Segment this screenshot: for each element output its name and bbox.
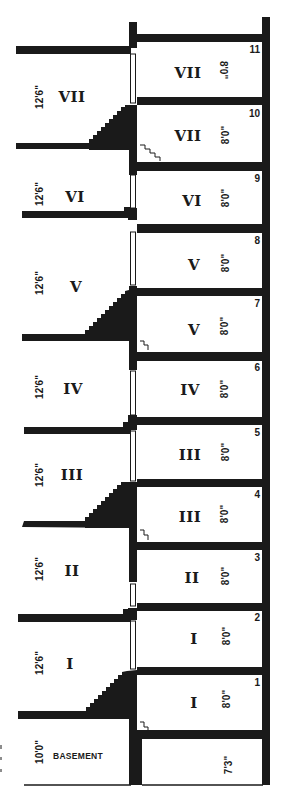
height-dim-floor-5: 8'0" — [220, 443, 231, 461]
level-label-II-left: II — [64, 562, 79, 580]
stair-mark-1 — [140, 722, 148, 731]
level-label-I-floor-1: I — [190, 694, 198, 712]
wall-opening — [131, 54, 136, 103]
wall-opening — [131, 175, 136, 208]
level-label-V-floor-7: V — [188, 321, 200, 339]
floor-number-11: 11 — [249, 44, 260, 55]
height-dim-basement-left: 10'0" — [34, 740, 45, 764]
level-label-I-left: I — [66, 655, 74, 673]
height-dim-III-left: 12'6" — [34, 463, 45, 487]
height-dim-floor-10: 8'0" — [220, 126, 231, 144]
level-label-V-left: V — [70, 278, 82, 296]
section-linework — [0, 0, 284, 799]
floor-number-3: 3 — [254, 552, 260, 563]
stair-I — [86, 670, 137, 719]
floor-number-7: 7 — [254, 298, 260, 309]
floor-number-10: 10 — [249, 108, 260, 119]
level-label-V-floor-8: V — [188, 256, 200, 274]
level-label-II-floor-3: II — [184, 569, 199, 587]
height-dim-floor-4: 8'0" — [219, 505, 230, 523]
height-dim-floor-3: 8'0" — [220, 567, 231, 585]
slab-floor-10 — [137, 97, 263, 105]
level-label-VII-left: VII — [58, 88, 85, 106]
level-label-VI-floor-9: VI — [182, 192, 202, 210]
height-dim-floor-11: 8'0" — [218, 61, 229, 79]
height-dim-II-left: 12'6" — [34, 557, 45, 581]
floor-number-8: 8 — [254, 235, 260, 246]
central-wall-seg — [129, 160, 137, 175]
slab-floor-7 — [137, 288, 263, 296]
slab-floor-9 — [137, 162, 263, 171]
floor-number-4: 4 — [254, 489, 260, 500]
height-dim-floor-6: 8'0" — [219, 380, 230, 398]
slab-floor-5 — [137, 417, 263, 425]
height-dim-floor-2: 8'0" — [221, 627, 232, 645]
slab-floor-4 — [137, 479, 263, 487]
left-slab-IV-step — [123, 422, 132, 429]
level-label-III-floor-4: III — [179, 508, 202, 526]
stair-V — [85, 288, 137, 341]
basement-label: BASEMENT — [53, 751, 103, 761]
height-dim-IV-left: 12'6" — [34, 375, 45, 399]
stair-VII — [89, 105, 137, 150]
height-dim-I-left: 12'6" — [34, 651, 45, 675]
stair-mark-4 — [140, 530, 148, 540]
slab-floor-2 — [137, 603, 263, 611]
left-slab-II-step — [123, 609, 132, 616]
stair-mark-10 — [140, 145, 160, 161]
wall-opening — [131, 232, 136, 285]
height-dim-floor-7: 8'0" — [219, 317, 230, 335]
height-dim-floor-9: 8'0" — [220, 189, 231, 207]
stair-mark-7 — [140, 341, 148, 350]
height-dim-V-left: 12'6" — [34, 271, 45, 295]
level-label-VII-floor-10: VII — [174, 127, 201, 145]
wall-opening — [131, 371, 136, 415]
level-label-VII-floor-11: VII — [174, 64, 201, 82]
height-dim-floor-1: 8'0" — [221, 690, 232, 708]
floor-number-9: 9 — [254, 173, 260, 184]
slab-floor-1 — [137, 667, 263, 675]
level-label-III-floor-5: III — [179, 446, 202, 464]
stair-III — [85, 482, 137, 528]
level-label-I-floor-2: I — [190, 630, 198, 648]
slab-basement — [137, 730, 263, 739]
basement-inner-wall — [137, 738, 142, 785]
level-label-IV-floor-6: IV — [180, 381, 200, 399]
slab-floor-6 — [137, 352, 263, 361]
wall-opening — [131, 621, 136, 669]
left-slab-IV — [24, 427, 131, 434]
central-wall-top — [129, 22, 137, 48]
right-outer-wall — [262, 17, 270, 785]
height-dim-floor-8: 8'0" — [220, 254, 231, 272]
floor-number-1: 1 — [254, 677, 260, 688]
building-section-diagram: VII 12'6" VI 12'6" V 12'6" IV 12'6" III … — [0, 0, 284, 799]
slab-floor-8 — [137, 224, 263, 233]
left-slab-top — [16, 46, 131, 54]
level-label-IV-left: IV — [63, 380, 83, 398]
left-slab-II — [18, 614, 131, 622]
height-dim-basement-right: 7'3" — [223, 756, 234, 774]
floor-number-2: 2 — [254, 612, 260, 623]
floor-number-5: 5 — [254, 427, 260, 438]
level-label-III-left: III — [61, 466, 84, 484]
wall-opening — [131, 584, 136, 606]
height-dim-VII-left: 12'6" — [34, 85, 45, 109]
slab-floor-3 — [137, 542, 263, 550]
roof-slab — [137, 34, 263, 42]
height-dim-VI-left: 12'6" — [34, 182, 45, 206]
level-label-VI-left: VI — [65, 188, 85, 206]
left-slab-VI — [22, 211, 131, 218]
floor-number-6: 6 — [254, 362, 260, 373]
wall-opening — [131, 431, 136, 481]
